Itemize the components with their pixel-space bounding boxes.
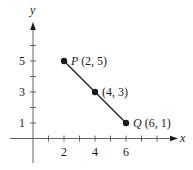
point-dot-icon bbox=[92, 89, 98, 95]
x-axis-label: x bbox=[179, 131, 186, 145]
coordinate-plot: 246135 P (2, 5)(4, 3)Q (6, 1) x y bbox=[0, 0, 193, 170]
point-dot-icon bbox=[123, 120, 129, 126]
data-point: P (2, 5) bbox=[61, 54, 107, 68]
data-point: Q (6, 1) bbox=[123, 116, 171, 130]
point-name: P bbox=[70, 54, 81, 68]
data-points: P (2, 5)(4, 3)Q (6, 1) bbox=[61, 54, 171, 130]
axis-tick-labels: 246135 bbox=[19, 54, 129, 159]
point-coordinates: (4, 3) bbox=[102, 85, 128, 99]
x-axis-arrow-icon bbox=[170, 136, 178, 142]
point-dot-icon bbox=[61, 58, 67, 64]
y-axis-arrow-icon bbox=[30, 22, 36, 30]
y-tick-label: 3 bbox=[19, 85, 25, 99]
x-tick-label: 2 bbox=[61, 145, 67, 159]
x-tick-label: 4 bbox=[92, 145, 98, 159]
y-tick-label: 1 bbox=[19, 116, 25, 130]
point-coordinates: (6, 1) bbox=[145, 116, 171, 130]
point-label: P (2, 5) bbox=[70, 54, 107, 68]
y-axis-label: y bbox=[29, 3, 36, 17]
y-tick-label: 5 bbox=[19, 54, 25, 68]
x-tick-label: 6 bbox=[123, 145, 129, 159]
data-point: (4, 3) bbox=[92, 85, 128, 99]
point-label: (4, 3) bbox=[102, 85, 128, 99]
point-name: Q bbox=[133, 116, 145, 130]
point-coordinates: (2, 5) bbox=[81, 54, 107, 68]
point-label: Q (6, 1) bbox=[133, 116, 171, 130]
